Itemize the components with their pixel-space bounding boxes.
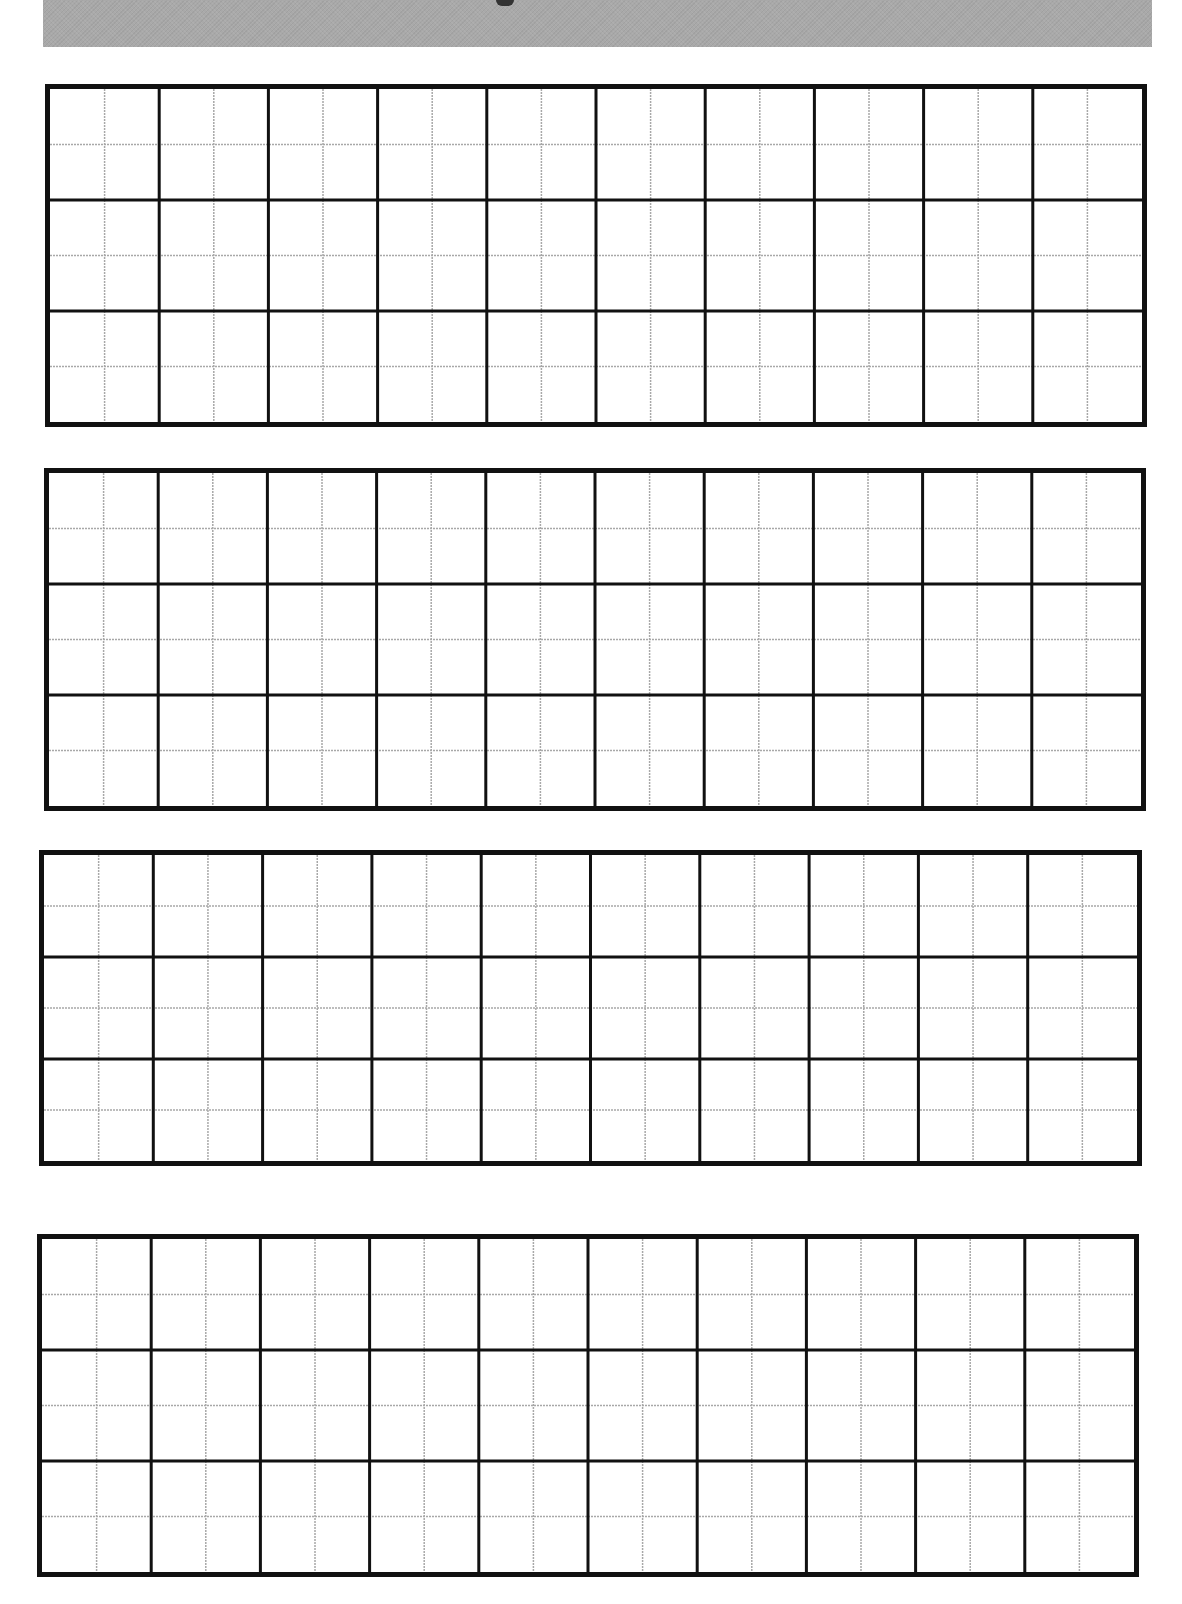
grid-lines bbox=[49, 473, 1141, 806]
header-banner bbox=[43, 0, 1152, 47]
writing-grid-block-3 bbox=[39, 850, 1142, 1166]
writing-grid-block-4 bbox=[37, 1234, 1139, 1577]
grid-lines bbox=[50, 89, 1142, 422]
grid-lines bbox=[44, 855, 1137, 1161]
writing-grid-block-1 bbox=[45, 84, 1147, 427]
cropped-heading-glyph bbox=[496, 0, 514, 6]
grid-lines bbox=[42, 1239, 1134, 1572]
writing-grid-block-2 bbox=[44, 468, 1146, 811]
